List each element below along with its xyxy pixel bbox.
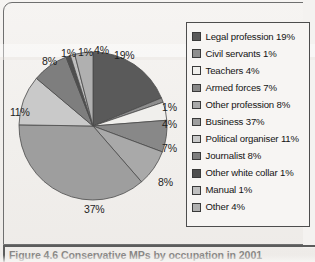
legend-item-label: Other white collar 1% (206, 168, 294, 178)
pie-slice-label: 19% (114, 49, 134, 61)
figure-caption: Figure 4.6 Conservative MPs by occupatio… (9, 249, 262, 261)
pie-slice-label: 1% (78, 46, 93, 58)
legend-item-label: Teachers 4% (206, 66, 260, 76)
legend-item-label: Journalist 8% (206, 151, 262, 161)
pie-slice-label: 4% (94, 44, 109, 56)
pie-slice-label: 11% (10, 106, 30, 118)
pie-slice-label: 1% (162, 101, 177, 113)
legend-color-swatch (192, 186, 201, 195)
legend-color-swatch (192, 66, 201, 75)
pie-slice-group (19, 52, 167, 200)
pie-slice-label: 8% (42, 55, 57, 67)
chart-legend: Legal profession 19%Civil servants 1%Tea… (186, 22, 310, 227)
legend-item-label: Armed forces 7% (206, 83, 277, 93)
pie-chart: 19%1%4%7%8%37%11%8%1%1%4% (6, 14, 184, 226)
pie-slice-label: 4% (162, 118, 177, 130)
figure-page: 19%1%4%7%8%37%11%8%1%1%4% Legal professi… (0, 0, 315, 262)
legend-item-label: Other profession 8% (206, 100, 291, 110)
legend-color-swatch (192, 118, 201, 127)
legend-item: Armed forces 7% (192, 79, 309, 96)
caption-strip: Figure 4.6 Conservative MPs by occupatio… (0, 247, 315, 262)
legend-item: Legal profession 19% (192, 28, 309, 45)
legend-item: Other 4% (192, 199, 309, 216)
legend-color-swatch (192, 101, 201, 110)
legend-color-swatch (192, 135, 201, 144)
legend-item-label: Political organiser 11% (206, 134, 299, 144)
legend-color-swatch (192, 203, 201, 212)
legend-item: Manual 1% (192, 182, 309, 199)
legend-item: Other white collar 1% (192, 165, 309, 182)
legend-color-swatch (192, 49, 201, 58)
legend-item-label: Business 37% (206, 117, 265, 127)
legend-item-label: Other 4% (206, 202, 245, 212)
legend-item-label: Civil servants 1% (206, 49, 277, 59)
caption-left-bar (3, 247, 5, 262)
legend-item-label: Manual 1% (206, 185, 253, 195)
legend-color-swatch (192, 152, 201, 161)
pie-slice-label: 37% (84, 203, 104, 215)
pie-slice-label: 1% (61, 47, 76, 59)
legend-color-swatch (192, 84, 201, 93)
legend-item: Other profession 8% (192, 96, 309, 113)
legend-item: Political organiser 11% (192, 131, 309, 148)
legend-item: Civil servants 1% (192, 45, 309, 62)
pie-slice-label: 8% (158, 176, 173, 188)
legend-item: Journalist 8% (192, 148, 309, 165)
legend-color-swatch (192, 32, 201, 41)
legend-item: Teachers 4% (192, 62, 309, 79)
legend-color-swatch (192, 169, 201, 178)
legend-row-group: Legal profession 19%Civil servants 1%Tea… (192, 28, 309, 216)
pie-slice-label: 7% (162, 142, 177, 154)
legend-item-label: Legal profession 19% (206, 32, 295, 42)
legend-item: Business 37% (192, 113, 309, 130)
